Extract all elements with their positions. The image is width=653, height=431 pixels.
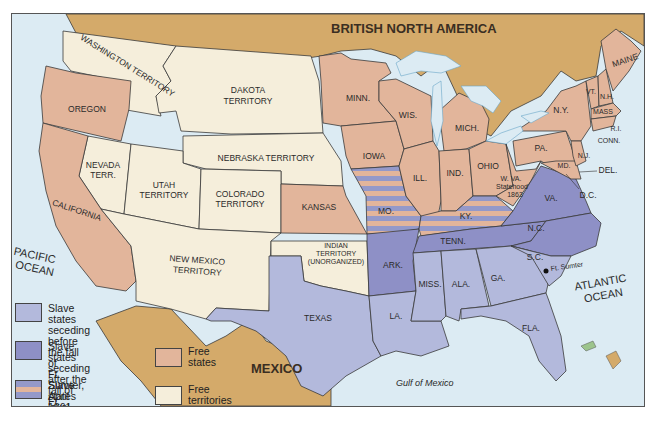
label-nh: N.H. xyxy=(600,93,614,100)
legend-swatch-free-states xyxy=(155,348,182,367)
label-utah: UTAH xyxy=(153,180,176,190)
legend-swatch-slave-loyal xyxy=(15,380,42,399)
label-colorado-2: TERRITORY xyxy=(216,199,265,209)
label-ala: ALA. xyxy=(452,279,470,289)
label-nevada: NEVADA xyxy=(86,160,121,170)
label-va: VA. xyxy=(544,193,557,203)
label-texas: TEXAS xyxy=(304,313,332,323)
label-indian-2: TERRITORY xyxy=(316,250,357,257)
label-kansas: KANSAS xyxy=(302,202,337,212)
map-svg: BRITISH NORTH AMERICA MEXICO PACIFIC OCE… xyxy=(12,14,644,406)
label-indian-3: (UNORGANIZED) xyxy=(308,258,364,266)
label-nc: N.C. xyxy=(528,223,545,233)
iowa xyxy=(341,121,404,169)
label-dakota: DAKOTA xyxy=(231,85,266,95)
label-md: MD. xyxy=(558,162,571,169)
label-pa: PA. xyxy=(534,143,547,153)
legend-swatch-slave-after xyxy=(15,341,42,360)
legend-text-free-territories: Free territories xyxy=(188,384,232,406)
civil-war-map: BRITISH NORTH AMERICA MEXICO PACIFIC OCE… xyxy=(11,13,645,407)
label-wis: WIS. xyxy=(399,110,417,120)
label-wva: W. VA. xyxy=(501,175,522,182)
label-ri: R.I. xyxy=(611,125,622,132)
label-wva-3: 1863 xyxy=(507,191,523,198)
label-mass: MASS xyxy=(593,108,613,115)
label-mo: MO. xyxy=(378,206,394,216)
label-wva-2: Statehood xyxy=(496,183,528,190)
label-tenn: TENN. xyxy=(440,236,466,246)
label-minn: MINN. xyxy=(346,93,370,103)
label-iowa: IOWA xyxy=(363,151,386,161)
label-utah-2: TERRITORY xyxy=(140,190,189,200)
label-la: LA. xyxy=(390,311,403,321)
label-vt: VT. xyxy=(586,88,596,95)
label-ark: ARK. xyxy=(383,260,403,270)
label-ky: KY. xyxy=(460,211,473,221)
legend-text-free-states: Free states xyxy=(188,346,216,368)
legend-item-free-territories: Free territories xyxy=(155,384,232,406)
label-ill: ILL. xyxy=(413,173,427,183)
label-mexico: MEXICO xyxy=(251,361,302,376)
label-dc: D.C. xyxy=(580,190,597,200)
label-oregon: OREGON xyxy=(68,104,106,114)
label-del: DEL. xyxy=(599,165,618,175)
legend-swatch-free-territories xyxy=(155,386,182,405)
label-mich: MICH. xyxy=(455,123,479,133)
label-ohio: OHIO xyxy=(477,161,499,171)
label-ind: IND. xyxy=(447,168,464,178)
label-british-north-america: BRITISH NORTH AMERICA xyxy=(331,21,497,36)
label-nevada-2: TERR. xyxy=(90,170,116,180)
label-indian: INDIAN xyxy=(324,242,348,249)
legend-text-line: Slave states seceding xyxy=(48,303,90,336)
legend-item-slave-loyal: Slave states loyal to the Union xyxy=(15,380,76,407)
label-nebraska: NEBRASKA TERRITORY xyxy=(218,153,315,163)
label-colorado: COLORADO xyxy=(216,189,265,199)
label-gulf-of-mexico: Gulf of Mexico xyxy=(396,378,454,388)
legend-text-line: Slave states seceding xyxy=(48,341,90,374)
label-sc: S.C. xyxy=(527,252,544,262)
legend-item-free-states: Free states xyxy=(155,346,216,368)
label-fla: FLA. xyxy=(522,323,540,333)
legend-swatch-slave-before xyxy=(15,303,42,322)
label-miss: MISS. xyxy=(418,279,441,289)
label-nj: N.J. xyxy=(578,152,591,159)
label-ga: GA. xyxy=(491,273,506,283)
label-conn: CONN. xyxy=(598,137,621,144)
fort-sumter-marker xyxy=(544,269,549,274)
label-dakota-2: TERRITORY xyxy=(224,96,273,106)
label-ny: N.Y. xyxy=(553,105,568,115)
legend-text-line: Slave states loyal xyxy=(48,380,76,407)
